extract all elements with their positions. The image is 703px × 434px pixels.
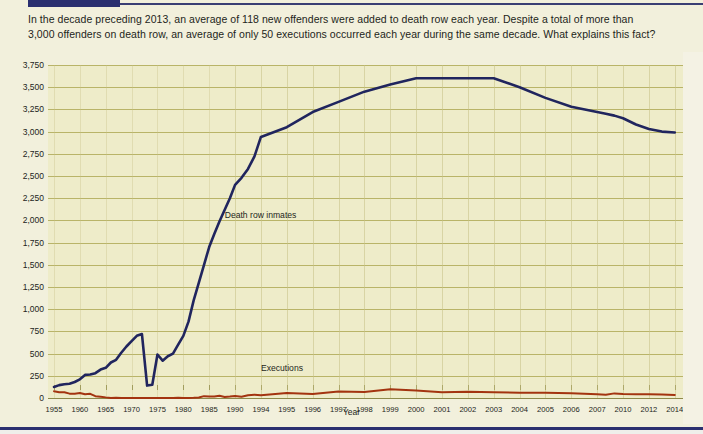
- navy-accent-bar: [28, 0, 120, 7]
- death-row-inmates-line: [54, 78, 675, 387]
- executions-line: [54, 389, 675, 398]
- series-lines: [0, 52, 703, 424]
- navy-accent-rule-top: [120, 3, 703, 5]
- series-annotation-label: Executions: [261, 363, 303, 373]
- figure-page: In the decade preceding 2013, an average…: [0, 0, 703, 434]
- chart-area: 3,7503,5003,2503,0002,7502,5002,2502,000…: [0, 52, 703, 424]
- bottom-strip: [0, 430, 703, 434]
- intro-paragraph: In the decade preceding 2013, an average…: [28, 12, 683, 42]
- intro-line-2: 3,000 offenders on death row, an average…: [28, 27, 683, 42]
- series-annotation-label: Death row inmates: [225, 210, 297, 220]
- x-axis-title: Year: [0, 407, 703, 417]
- intro-line-1: In the decade preceding 2013, an average…: [28, 12, 683, 27]
